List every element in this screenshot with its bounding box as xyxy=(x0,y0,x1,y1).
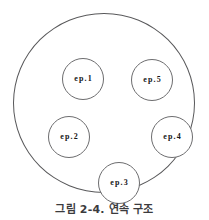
node-circle-ep1: ep.1 xyxy=(62,58,104,100)
node-label-ep1: ep.1 xyxy=(73,75,93,83)
node-circle-ep3: ep.3 xyxy=(98,162,140,204)
node-circle-ep5: ep.5 xyxy=(131,59,173,101)
node-label-ep5: ep.5 xyxy=(142,76,162,84)
outer-boundary-circle: ep.1 ep.5 ep.2 ep.4 ep.3 xyxy=(13,13,195,193)
figure-container: ep.1 ep.5 ep.2 ep.4 ep.3 그림 2-4. 연속 구조 xyxy=(0,0,209,220)
node-circle-ep4: ep.4 xyxy=(151,116,193,158)
node-label-ep2: ep.2 xyxy=(59,133,79,141)
figure-caption: 그림 2-4. 연속 구조 xyxy=(0,200,209,216)
node-circle-ep2: ep.2 xyxy=(48,116,90,158)
node-label-ep3: ep.3 xyxy=(109,179,129,187)
node-label-ep4: ep.4 xyxy=(162,133,182,141)
